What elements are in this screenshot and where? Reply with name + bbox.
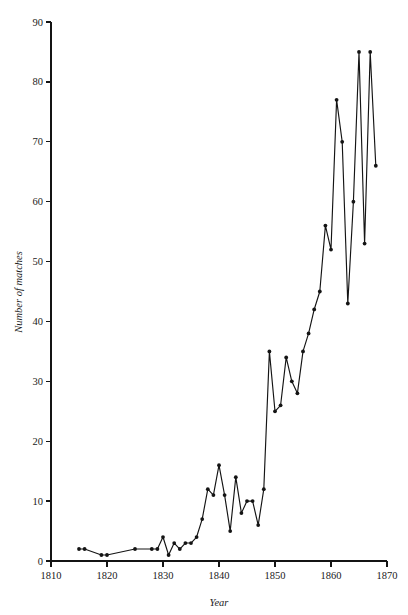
data-point: 1857: 42	[312, 308, 316, 312]
x-tick-label: 1830	[153, 570, 174, 581]
x-tick-label: 1860	[321, 570, 342, 581]
x-tick-label: 1820	[97, 570, 118, 581]
data-point: 1855: 35	[301, 349, 305, 353]
data-point: 1847: 6	[256, 523, 260, 527]
data-point: 1845: 10	[245, 499, 249, 503]
data-point: 1859: 56	[324, 224, 328, 228]
data-point: 1839: 11	[212, 493, 216, 497]
y-tick-label: 20	[33, 436, 44, 447]
data-point: 1868: 66	[374, 164, 378, 168]
y-tick-label: 50	[33, 256, 44, 267]
x-tick-label: 1850	[265, 570, 286, 581]
data-point: 1831: 1	[167, 553, 171, 557]
data-point: 1830: 4	[161, 535, 165, 539]
data-series-markers: 1815: 21816: 21819: 11820: 11825: 21828:…	[77, 50, 378, 557]
data-point: 1842: 5	[228, 529, 232, 533]
data-point: 1866: 53	[363, 242, 367, 246]
data-point: 1860: 52	[329, 248, 333, 252]
data-point: 1832: 3	[172, 541, 176, 545]
y-tick-label: 10	[33, 496, 44, 507]
data-point: 1815: 2	[77, 547, 81, 551]
data-point: 1846: 10	[251, 499, 255, 503]
x-tick-label: 1840	[209, 570, 230, 581]
data-point: 1848: 12	[262, 487, 266, 491]
y-axis-ticks: 0102030405060708090	[33, 17, 52, 567]
line-chart: 0102030405060708090 18101820183018401850…	[0, 0, 408, 615]
data-point: 1816: 2	[83, 547, 87, 551]
y-tick-label: 70	[33, 136, 44, 147]
data-point: 1854: 28	[296, 391, 300, 395]
data-point: 1843: 14	[234, 475, 238, 479]
data-point: 1864: 60	[352, 200, 356, 204]
data-point: 1852: 34	[284, 355, 288, 359]
data-point: 1825: 2	[133, 547, 137, 551]
data-point: 1838: 12	[206, 487, 210, 491]
data-point: 1844: 8	[240, 511, 244, 515]
data-point: 1865: 85	[357, 50, 361, 54]
data-point: 1853: 30	[290, 379, 294, 383]
data-point: 1819: 1	[100, 553, 104, 557]
y-tick-label: 0	[38, 556, 43, 567]
data-point: 1862: 70	[340, 140, 344, 144]
x-tick-label: 1870	[377, 570, 398, 581]
data-series-line	[79, 52, 376, 555]
y-tick-label: 90	[33, 17, 44, 28]
data-point: 1840: 16	[217, 463, 221, 467]
data-point: 1863: 43	[346, 302, 350, 306]
data-point: 1828: 2	[150, 547, 154, 551]
data-point: 1861: 77	[335, 98, 339, 102]
y-tick-label: 60	[33, 196, 44, 207]
y-tick-label: 80	[33, 76, 44, 87]
data-point: 1858: 45	[318, 290, 322, 294]
data-point: 1851: 26	[279, 403, 283, 407]
data-point: 1829: 2	[156, 547, 160, 551]
y-tick-label: 40	[33, 316, 44, 327]
data-point: 1834: 3	[184, 541, 188, 545]
data-point: 1841: 11	[223, 493, 227, 497]
y-tick-label: 30	[33, 376, 44, 387]
data-point: 1835: 3	[189, 541, 193, 545]
x-axis-title: Year	[210, 597, 230, 608]
data-point: 1849: 35	[268, 349, 272, 353]
x-tick-label: 1810	[41, 570, 62, 581]
data-point: 1836: 4	[195, 535, 199, 539]
data-point: 1850: 25	[273, 409, 277, 413]
data-point: 1856: 38	[307, 332, 311, 336]
y-axis-title: Number of matches	[13, 251, 24, 334]
data-point: 1820: 1	[105, 553, 109, 557]
data-point: 1833: 2	[178, 547, 182, 551]
x-axis-ticks: 1810182018301840185018601870	[41, 561, 398, 581]
data-point: 1837: 7	[200, 517, 204, 521]
chart-figure: 0102030405060708090 18101820183018401850…	[0, 0, 408, 615]
data-point: 1867: 85	[368, 50, 372, 54]
